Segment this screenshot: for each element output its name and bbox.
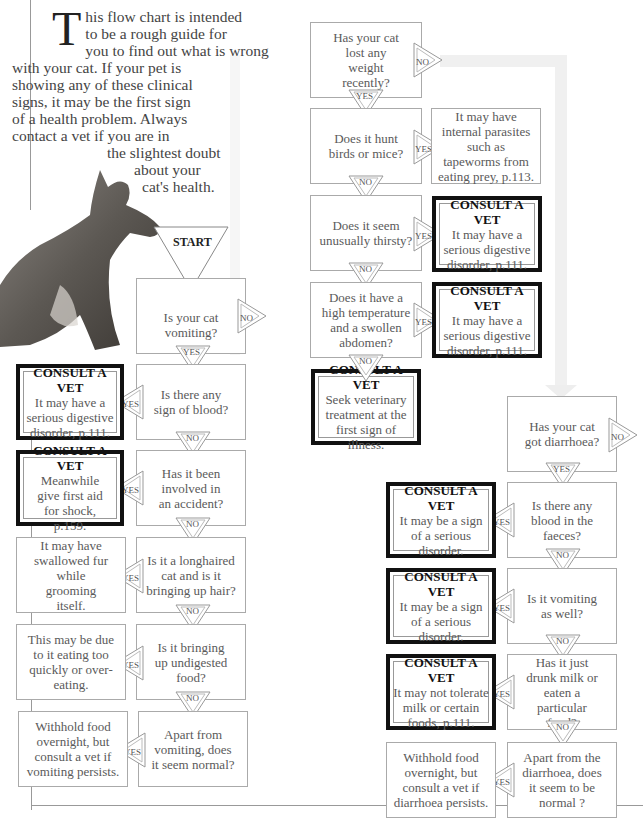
question-text: Does it have a high temperature and a sw… <box>321 290 411 350</box>
yes-label: YES <box>122 485 139 495</box>
advice-box: It may have internal parasites such as t… <box>431 108 541 184</box>
advice-box: This may be due to it eating too quickly… <box>16 624 126 700</box>
no-label: NO <box>186 606 199 616</box>
question-diarrhoea-normal: Apart from the diarrhoea, does it seem t… <box>507 742 617 818</box>
intro-line: you to find out what is wrong <box>12 42 242 59</box>
advice-text: It may have a serious digestive disorder… <box>441 227 533 272</box>
advice-box: Withhold food overnight, but consult a v… <box>18 711 128 787</box>
yes-label: YES <box>415 317 432 327</box>
question-text: Has it been involved in an accident? <box>156 466 226 511</box>
yes-label: YES <box>553 464 570 474</box>
start-label: START <box>173 235 212 250</box>
yes-label: YES <box>415 144 432 154</box>
question-text: Does it seem unusually thirsty? <box>318 218 414 248</box>
consult-heading: CONSULT A VET <box>394 655 488 685</box>
no-label: NO <box>556 636 569 646</box>
question-text: Is there any blood in the faeces? <box>527 498 597 543</box>
consult-heading: CONSULT A VET <box>394 569 488 599</box>
no-label: NO <box>186 519 199 529</box>
consult-heading: CONSULT A VET <box>24 443 116 473</box>
question-text: Has your cat lost any weight recently? <box>333 30 399 90</box>
advice-text: It may have internal parasites such as t… <box>438 109 534 184</box>
question-text: Has your cat got diarrhoea? <box>520 419 604 449</box>
question-diarrhoea: Has your cat got diarrhoea? <box>507 396 617 472</box>
advice-text: It may not tolerate milk or certain food… <box>393 685 489 730</box>
intro-line: signs, it may be the first sign <box>12 93 242 110</box>
advice-text: It may have a serious digestive disorder… <box>441 313 533 358</box>
consult-heading: CONSULT A VET <box>440 283 534 313</box>
yes-label: YES <box>183 347 200 357</box>
question-accident: Has it been involved in an accident? <box>136 450 246 526</box>
intro-line: the slightest doubt <box>107 144 242 161</box>
no-label: NO <box>556 550 569 560</box>
yes-label: YES <box>356 91 373 101</box>
advice-text: Withhold food overnight, but consult a v… <box>25 719 121 779</box>
advice-text: It may be a sign of a serious disorder. <box>398 599 484 644</box>
question-text: Is it bringing up undigested food? <box>151 640 231 685</box>
no-label: NO <box>359 356 372 366</box>
consult-vet-box: CONSULT A VETIt may not tolerate milk or… <box>386 654 496 730</box>
no-label: NO <box>186 433 199 443</box>
consult-vet-box: CONSULT A VETIt may have a serious diges… <box>432 282 542 358</box>
consult-vet-box: CONSULT A VETIt may have a serious diges… <box>432 196 542 272</box>
advice-text: Withhold food overnight, but consult a v… <box>393 750 489 810</box>
consult-vet-box: CONSULT A VETIt may be a sign of a serio… <box>386 482 496 558</box>
question-vomiting-as-well: Is it vomiting as well? <box>507 568 617 644</box>
consult-heading: CONSULT A VET <box>24 365 116 395</box>
connector-shadow-vertical <box>555 55 567 390</box>
question-vomiting: Is your cat vomiting? <box>136 278 246 354</box>
connector-shadow-top <box>440 55 565 67</box>
intro-line: with your cat. If your pet is <box>12 59 242 76</box>
no-label: NO <box>359 177 372 187</box>
question-weight-loss: Has your cat lost any weight recently? <box>310 22 422 98</box>
yes-label: YES <box>122 399 139 409</box>
consult-vet-box: CONSULT A VETIt may be a sign of a serio… <box>386 568 496 644</box>
question-text: Apart from vomiting, does it seem normal… <box>150 727 236 772</box>
no-label: NO <box>556 722 569 732</box>
question-temperature: Does it have a high temperature and a sw… <box>310 282 422 358</box>
no-label: NO <box>611 432 624 442</box>
no-label: NO <box>416 57 429 67</box>
advice-text: This may be due to it eating too quickly… <box>26 632 116 692</box>
advice-text: It may be a sign of a serious disorder. <box>398 513 484 558</box>
consult-heading: CONSULT A VET <box>394 483 488 513</box>
question-blood: Is there any sign of blood? <box>136 364 246 440</box>
no-label: NO <box>240 313 253 323</box>
advice-text: It may have a serious digestive disorder… <box>24 395 116 440</box>
advice-text: Meanwhile give first aid for shock, p.15… <box>30 473 110 533</box>
intro-line: of a health problem. Always <box>12 110 242 127</box>
question-text: Has it just drunk milk or eaten a partic… <box>522 655 602 730</box>
question-blood-faeces: Is there any blood in the faeces? <box>507 482 617 558</box>
question-thirsty: Does it seem unusually thirsty? <box>310 195 422 271</box>
advice-text: It may have swallowed fur while grooming… <box>31 538 111 613</box>
question-text: Is there any sign of blood? <box>151 387 231 417</box>
consult-vet-box: CONSULT A VETIt may have a serious diges… <box>16 364 124 440</box>
consult-vet-box: CONSULT A VETMeanwhile give first aid fo… <box>16 450 124 526</box>
question-hunt: Does it hunt birds or mice? <box>310 108 422 184</box>
advice-box: Withhold food overnight, but consult a v… <box>386 742 496 818</box>
advice-box: It may have swallowed fur while grooming… <box>16 537 126 613</box>
question-text: Does it hunt birds or mice? <box>326 131 406 161</box>
question-text: Is your cat vomiting? <box>156 310 226 340</box>
consult-heading: CONSULT A VET <box>440 197 534 227</box>
question-text: Is it a longhaired cat and is it bringin… <box>143 553 239 598</box>
no-label: NO <box>186 693 199 703</box>
question-seems-normal: Apart from vomiting, does it seem normal… <box>138 711 248 787</box>
advice-text: Seek veterinary treatment at the first s… <box>317 392 415 452</box>
question-text: Is it vomiting as well? <box>522 591 602 621</box>
question-undigested: Is it bringing up undigested food? <box>136 624 246 700</box>
intro-line: showing any of these clinical <box>12 76 242 93</box>
yes-label: YES <box>415 231 432 241</box>
question-longhaired: Is it a longhaired cat and is it bringin… <box>136 537 246 613</box>
question-milk: Has it just drunk milk or eaten a partic… <box>507 654 617 730</box>
no-label: NO <box>359 264 372 274</box>
intro-line: contact a vet if you are in <box>12 127 242 144</box>
question-text: Apart from the diarrhoea, does it seem t… <box>520 750 604 810</box>
intro-dropcap: T <box>52 10 81 48</box>
